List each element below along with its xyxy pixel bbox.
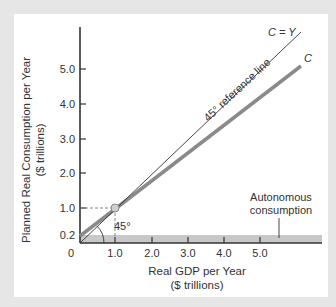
angle-label: 45° <box>114 220 131 232</box>
svg-text:5.0: 5.0 <box>60 63 75 75</box>
c-label: C <box>304 52 312 64</box>
svg-text:4.0: 4.0 <box>60 98 75 110</box>
svg-text:1.0: 1.0 <box>107 247 122 259</box>
cy-label: C = Y <box>268 26 296 38</box>
y-axis-ticks <box>80 69 86 208</box>
svg-text:0.2: 0.2 <box>60 229 75 241</box>
y-axis-label: Planned Real Consumption per Year <box>20 57 32 243</box>
x-axis-unit: ($ trillions) <box>170 279 223 291</box>
intersection-point <box>111 204 119 212</box>
y-tick-labels: 5.0 4.0 3.0 2.0 1.0 0.2 <box>60 63 75 241</box>
svg-text:1.0: 1.0 <box>60 202 75 214</box>
chart-svg: 5.0 4.0 3.0 2.0 1.0 0.2 0 1.0 2.0 3.0 4.… <box>0 0 336 307</box>
svg-text:3.0: 3.0 <box>60 133 75 145</box>
autonomous-consumption-band <box>80 235 322 243</box>
y-axis-unit: ($ trillions) <box>34 123 46 176</box>
svg-text:3.0: 3.0 <box>180 247 195 259</box>
x-tick-labels: 0 1.0 2.0 3.0 4.0 5.0 <box>68 247 268 259</box>
autonomous-label-line2: consumption <box>250 204 312 216</box>
svg-text:2.0: 2.0 <box>144 247 159 259</box>
svg-text:4.0: 4.0 <box>216 247 231 259</box>
svg-text:5.0: 5.0 <box>252 247 267 259</box>
x-axis-label: Real GDP per Year <box>148 265 246 277</box>
svg-text:0: 0 <box>68 247 74 259</box>
svg-text:2.0: 2.0 <box>60 167 75 179</box>
autonomous-label-line1: Autonomous <box>250 191 312 203</box>
